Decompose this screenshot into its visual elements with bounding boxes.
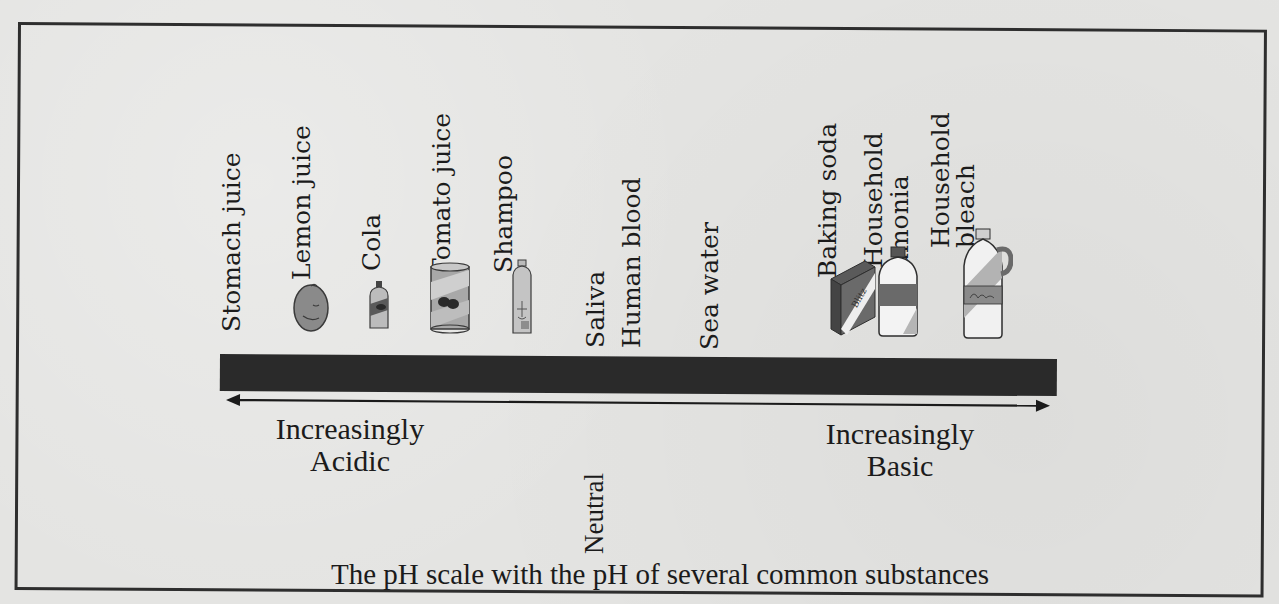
label-saliva: Saliva <box>582 271 610 348</box>
basic-label-line2: Basic <box>790 450 1010 482</box>
tomato-juice-can-icon <box>429 262 471 334</box>
acidic-label-line2: Acidic <box>240 445 460 477</box>
label-cola: Cola <box>358 214 386 271</box>
figure-caption: The pH scale with the pH of several comm… <box>210 558 1110 590</box>
bleach-jug-icon <box>961 228 1013 340</box>
basic-region-label: Increasingly Basic <box>790 418 1010 482</box>
shampoo-bottle-icon <box>511 259 533 335</box>
acidic-label-line1: Increasingly <box>240 413 460 445</box>
acidic-region-label: Increasingly Acidic <box>240 413 460 477</box>
label-sea-water: Sea water <box>696 222 724 350</box>
label-tomato-juice: Tomato juice <box>428 113 456 275</box>
basic-label-line1: Increasingly <box>790 418 1010 450</box>
cola-bottle-icon <box>367 280 391 330</box>
lemon-icon <box>291 281 331 333</box>
baking-soda-box-icon: Blitz <box>829 259 877 337</box>
label-human-blood: Human blood <box>618 177 646 348</box>
ammonia-bottle-icon <box>876 246 920 338</box>
label-shampoo: Shampoo <box>490 155 518 273</box>
label-lemon-juice: Lemon juice <box>288 125 316 280</box>
label-baking-soda: Baking soda <box>814 123 842 278</box>
ph-scale-bar <box>220 354 1057 396</box>
label-stomach-juice: Stomach juice <box>218 152 246 332</box>
neutral-label: Neutral <box>580 473 608 554</box>
ph-scale-diagram: Stomach juice Lemon juice Cola Tomato ju… <box>0 0 1279 604</box>
